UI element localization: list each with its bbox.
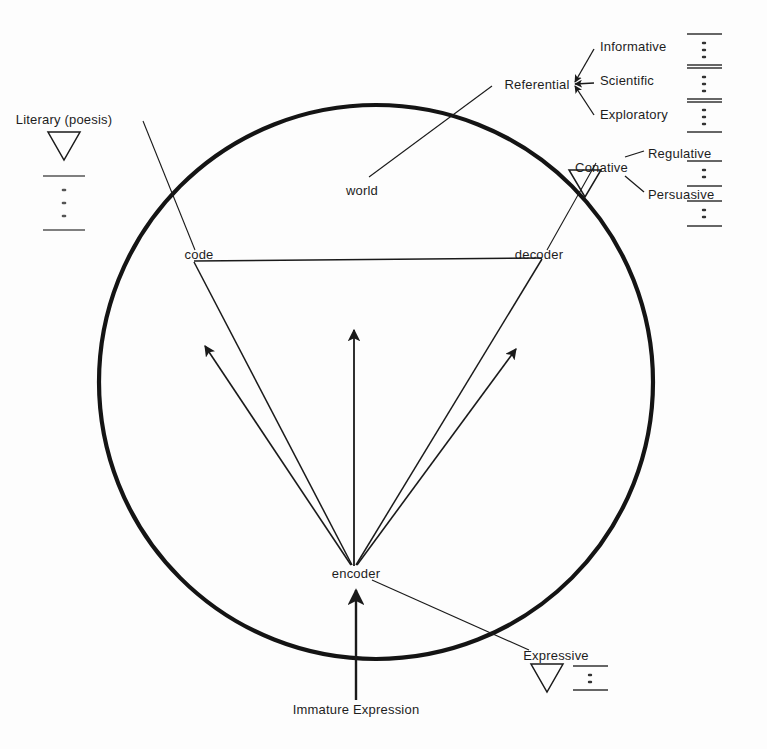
arrow-encoder-to-decoder xyxy=(357,349,516,565)
branch-scientific-line xyxy=(575,83,594,84)
arrow-encoder-to-code xyxy=(205,346,351,565)
label-informative: Informative xyxy=(600,40,667,53)
informative-ladder-icon xyxy=(687,34,722,65)
decoder-text: decoder xyxy=(515,247,563,262)
literary-triangle-icon xyxy=(48,132,80,160)
diagram-canvas: Literary (poesis) Referential Informativ… xyxy=(0,0,767,749)
leader-code-literary xyxy=(143,121,195,250)
label-decoder: decoder xyxy=(515,248,563,261)
exploratory-ladder-icon xyxy=(687,102,722,132)
persuasive-text: Persuasive xyxy=(648,187,714,202)
encoder-text: encoder xyxy=(332,566,380,581)
regulative-text: Regulative xyxy=(648,146,711,161)
label-world: world xyxy=(346,184,378,197)
branch-informative-line xyxy=(575,49,594,82)
conative-text: Conative xyxy=(575,160,628,175)
edge-code-encoder xyxy=(194,262,352,565)
referential-text: Referential xyxy=(504,77,569,92)
edge-decoder-encoder xyxy=(356,259,542,565)
label-regulative: Regulative xyxy=(648,147,711,160)
literary-ladder-icon xyxy=(43,176,85,230)
label-immature-expression: Immature Expression xyxy=(293,703,420,716)
leader-world-referential xyxy=(369,86,492,177)
leader-encoder-expressive xyxy=(372,580,529,650)
branch-regulative-line xyxy=(625,151,644,157)
expressive-text: Expressive xyxy=(523,648,589,663)
world-text: world xyxy=(346,183,378,198)
literary-text: Literary (poesis) xyxy=(16,112,113,127)
edge-code-decoder xyxy=(194,258,542,261)
label-encoder: encoder xyxy=(332,567,380,580)
branch-exploratory-line xyxy=(575,86,594,115)
exploratory-text: Exploratory xyxy=(600,107,668,122)
label-expressive: Expressive xyxy=(523,649,589,662)
label-literary-poesis: Literary (poesis) xyxy=(16,113,113,126)
scientific-text: Scientific xyxy=(600,73,654,88)
branch-persuasive-line xyxy=(625,176,644,192)
expressive-ladder-icon xyxy=(573,666,608,690)
expressive-triangle-icon xyxy=(531,664,563,692)
label-code: code xyxy=(185,248,214,261)
scientific-ladder-icon xyxy=(687,68,722,99)
label-referential: Referential xyxy=(504,78,569,91)
label-conative: Conative xyxy=(575,161,628,174)
immature-expression-text: Immature Expression xyxy=(293,702,420,717)
code-text: code xyxy=(185,247,214,262)
persuasive-ladder-icon xyxy=(687,201,722,226)
label-scientific: Scientific xyxy=(600,74,654,87)
label-persuasive: Persuasive xyxy=(648,188,714,201)
regulative-ladder-icon xyxy=(687,161,722,186)
label-exploratory: Exploratory xyxy=(600,108,668,121)
informative-text: Informative xyxy=(600,39,667,54)
